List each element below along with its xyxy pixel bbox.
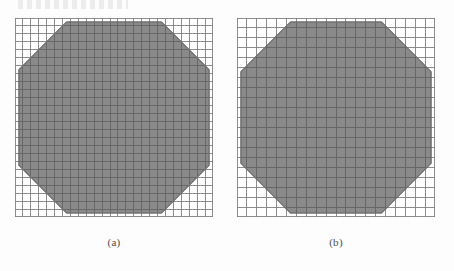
figure-area: (a) (b) [0,0,454,271]
panel-a: (a) [15,18,213,217]
panel-a-caption: (a) [15,236,213,248]
panel-b: (b) [237,18,435,217]
panel-a-mesh-octagon [15,18,213,217]
panel-b-mesh-octagon [237,18,435,217]
panel-b-caption: (b) [237,236,435,248]
panel-a-plot [15,18,213,217]
panel-b-plot [237,18,435,217]
